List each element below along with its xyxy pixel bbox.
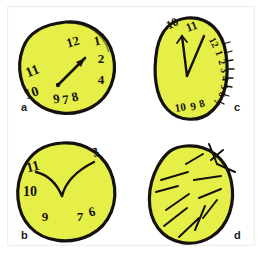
panel-label-c: c <box>234 102 240 113</box>
clock-drawing-b: 31110976 <box>0 134 131 267</box>
clock-b-numeral-4: 7 <box>77 209 84 224</box>
clock-b-numeral-3: 9 <box>42 209 49 224</box>
clock-c-numeral-6: 4 <box>220 75 232 82</box>
clock-panel-b: 31110976 b <box>0 134 131 267</box>
clock-a-numeral-2: 2 <box>98 51 105 66</box>
clock-drawing-c: 10111212345671098 <box>131 0 261 134</box>
clock-drawing-d <box>131 134 261 267</box>
clock-c-numeral-7: 5 <box>219 84 230 90</box>
clock-b-numeral-2: 10 <box>23 184 37 199</box>
clock-panel-d: d <box>131 134 261 267</box>
clock-a-numeral-3: 4 <box>98 72 105 87</box>
panel-label-d: d <box>234 230 241 241</box>
panel-label-b: b <box>21 230 28 241</box>
clock-panel-a: 121241110978 a <box>0 0 131 134</box>
clock-drawing-a: 121241110978 <box>0 0 131 134</box>
panel-label-a: a <box>21 102 27 113</box>
clock-panel-c: 10111212345671098 c <box>131 0 261 134</box>
clock-drawing-figure-sheet: 121241110978 a 31110976 b <box>0 0 261 267</box>
